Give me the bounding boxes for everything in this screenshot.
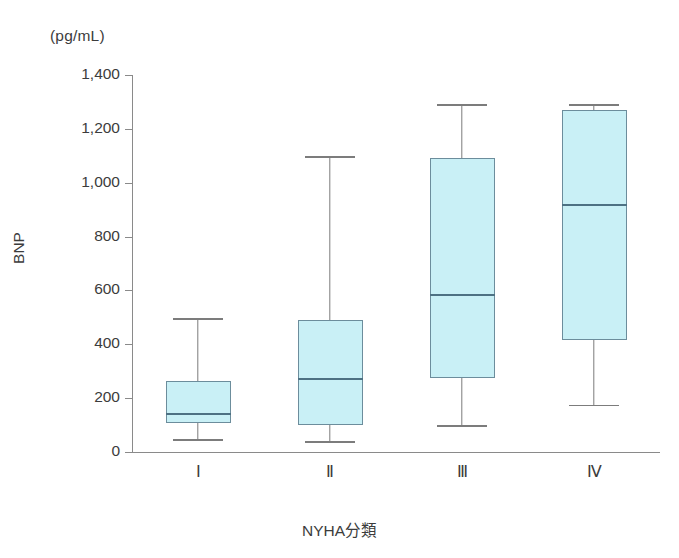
y-axis-tick-label: 0 [111, 442, 120, 460]
upper-whisker-line [197, 318, 198, 381]
y-axis-tick-label: 400 [94, 334, 120, 352]
x-axis-title: NYHA分類 [0, 518, 679, 540]
y-axis-tick: 800 [125, 237, 132, 238]
upper-whisker-cap [569, 104, 619, 106]
x-axis-category-label: Ⅲ [430, 463, 495, 481]
lower-whisker-cap [305, 441, 355, 443]
y-axis-tick: 200 [125, 398, 132, 399]
y-axis-tick-label: 1,000 [81, 173, 120, 191]
upper-whisker-cap [437, 104, 487, 106]
median-line [298, 378, 363, 380]
box-plot-group: Ⅱ [298, 75, 363, 452]
lower-whisker-cap [569, 405, 619, 407]
median-line [166, 413, 231, 415]
box-plot-chart: (pg/mL) BNP 1,4001,2001,0008006004002000… [0, 0, 679, 558]
median-line [562, 204, 627, 206]
lower-whisker-line [329, 425, 330, 441]
x-axis-line [132, 452, 660, 453]
x-axis-category-label: Ⅰ [166, 463, 231, 481]
box-plot-group: Ⅰ [166, 75, 231, 452]
y-axis-tick-label: 1,400 [81, 65, 120, 83]
y-axis-tick: 600 [125, 290, 132, 291]
y-axis-tick: 0 [125, 452, 132, 453]
y-axis-title: BNP [10, 228, 28, 268]
lower-whisker-cap [437, 425, 487, 427]
y-axis-tick-label: 600 [94, 280, 120, 298]
box-iqr-rect [430, 158, 495, 378]
upper-whisker-line [461, 104, 462, 158]
upper-whisker-line [329, 156, 330, 320]
box-iqr-rect [298, 320, 363, 425]
box-plot-group: Ⅳ [562, 75, 627, 452]
y-axis-line [132, 75, 133, 453]
upper-whisker-cap [173, 318, 223, 320]
lower-whisker-line [461, 378, 462, 425]
median-line [430, 294, 495, 296]
upper-whisker-cap [305, 156, 355, 158]
y-axis-tick-label: 800 [94, 227, 120, 245]
y-axis-tick: 1,400 [125, 75, 132, 76]
unit-label: (pg/mL) [50, 27, 105, 45]
y-axis-tick-label: 200 [94, 388, 120, 406]
x-axis-category-label: Ⅱ [298, 463, 363, 481]
box-iqr-rect [166, 381, 231, 423]
y-axis-tick-label: 1,200 [81, 119, 120, 137]
y-axis-tick: 400 [125, 344, 132, 345]
box-iqr-rect [562, 110, 627, 340]
y-axis-tick: 1,000 [125, 183, 132, 184]
lower-whisker-line [197, 423, 198, 439]
lower-whisker-line [593, 340, 594, 405]
lower-whisker-cap [173, 439, 223, 441]
y-axis-tick: 1,200 [125, 129, 132, 130]
plot-area: 1,4001,2001,0008006004002000 ⅠⅡⅢⅣ [132, 75, 660, 452]
x-axis-category-label: Ⅳ [562, 463, 627, 481]
box-plot-group: Ⅲ [430, 75, 495, 452]
